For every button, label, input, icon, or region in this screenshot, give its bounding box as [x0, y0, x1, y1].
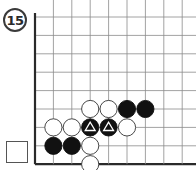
board-stones	[45, 100, 154, 170]
black-stone	[100, 119, 117, 136]
white-stone	[118, 119, 135, 136]
black-stone	[137, 100, 154, 117]
white-stone	[82, 137, 99, 154]
white-stone	[100, 100, 117, 117]
black-stone	[118, 100, 135, 117]
black-stone	[82, 119, 99, 136]
black-stone	[45, 137, 62, 154]
white-stone	[63, 119, 80, 136]
white-stone	[82, 156, 99, 170]
white-stone	[82, 100, 99, 117]
black-stone	[63, 137, 80, 154]
white-stone	[45, 119, 62, 136]
go-board	[0, 0, 196, 170]
